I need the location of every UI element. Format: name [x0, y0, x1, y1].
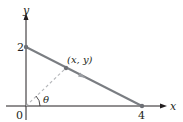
- angle-arc: [36, 96, 40, 106]
- x-intercept-label: 4: [138, 109, 145, 122]
- angle-label: θ: [43, 94, 49, 105]
- x-axis-label: x: [170, 100, 177, 113]
- x-axis-arrow-icon: [160, 104, 167, 109]
- y-intercept-point: [24, 45, 28, 49]
- y-intercept-label: 2: [17, 41, 24, 54]
- moving-point: [64, 66, 68, 70]
- diagram-canvas: y x 0 2 4 (x, y) θ: [0, 0, 183, 122]
- y-axis-label: y: [22, 4, 30, 17]
- origin-label: 0: [16, 109, 23, 122]
- x-intercept-point: [140, 104, 144, 108]
- moving-point-label: (x, y): [67, 54, 93, 65]
